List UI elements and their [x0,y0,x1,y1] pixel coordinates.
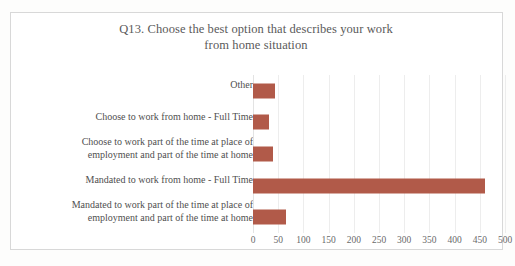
category-label-line: Mandated to work from home - Full Time [27,174,253,187]
category-label-line: Other [27,79,253,92]
bar [253,210,286,225]
category-label-line: Choose to work from home - Full Time [27,111,253,124]
page-background: Q13. Choose the best option that describ… [0,0,515,266]
category-label-mandated-full-time: Mandated to work from home - Full Time [27,174,253,187]
category-label-line: employment and part of the time at home [27,212,253,225]
x-tick-label-50: 50 [273,235,283,245]
category-label-line: Mandated to work part of the time at pla… [27,199,253,212]
chart-title-line-1: Q13. Choose the best option that describ… [41,21,471,37]
bar [253,115,269,130]
category-label-line: employment and part of the time at home [27,149,253,162]
plot-area [253,75,505,233]
x-tick-label-100: 100 [296,235,310,245]
chart-title-line-2: from home situation [41,37,471,53]
x-tick-label-400: 400 [447,235,461,245]
x-tick-label-450: 450 [473,235,487,245]
category-label-line: Choose to work part of the time at place… [27,136,253,149]
category-label-mandated-part-time: Mandated to work part of the time at pla… [27,199,253,224]
bar [253,83,275,98]
gridline-500 [505,75,506,233]
category-label-choose-part-time: Choose to work part of the time at place… [27,136,253,161]
x-tick-label-150: 150 [321,235,335,245]
x-tick-label-250: 250 [372,235,386,245]
category-axis-labels: Other Choose to work from home - Full Ti… [17,75,253,233]
bar [253,146,273,161]
bar [253,178,485,193]
x-axis-tick-labels: 050100150200250300350400450500 [253,235,513,251]
bar-row [253,170,505,202]
category-label-choose-full-time: Choose to work from home - Full Time [27,111,253,124]
x-tick-label-300: 300 [397,235,411,245]
x-tick-label-0: 0 [251,235,256,245]
bar-row [253,107,505,139]
category-label-other: Other [27,79,253,92]
chart-title: Q13. Choose the best option that describ… [41,21,471,53]
chart-frame: Q13. Choose the best option that describ… [10,12,503,250]
x-tick-label-200: 200 [347,235,361,245]
x-tick-label-500: 500 [498,235,512,245]
bar-row [253,201,505,233]
bar-row [253,138,505,170]
bar-row [253,75,505,107]
x-tick-label-350: 350 [422,235,436,245]
